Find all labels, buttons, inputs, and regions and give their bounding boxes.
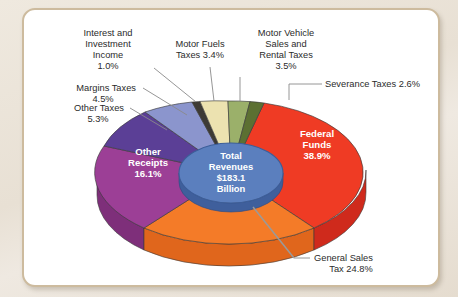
leader-severance [289,84,322,100]
callout-severance-taxes: Severance Taxes 2.6% [325,79,420,89]
interest-line1: Interest and [83,28,132,38]
callout-margins-taxes: Margins Taxes 4.5% [76,83,136,104]
interest-line3: Income [93,50,124,60]
center-label-line1: Total [220,150,242,161]
chart-frame: Total Revenues $183.1 Billion Federal Fu… [22,8,440,287]
center-hub: Total Revenues $183.1 Billion [179,143,283,212]
callout-other-taxes: Other Taxes 5.3% [74,103,124,124]
federal-funds-value: 38.9% [303,150,331,161]
interest-value: 1.0% [97,61,118,71]
interest-line2: Investment [85,39,131,49]
severance-line1: Severance Taxes 2.6% [325,79,420,89]
motor-vehicle-value: 3.5% [275,61,296,71]
other-receipts-line1: Other [135,146,161,157]
callout-motor-vehicle-sales-rental-taxes: Motor Vehicle Sales and Rental Taxes 3.5… [258,28,314,71]
federal-funds-line2: Funds [303,139,332,150]
motor-vehicle-line3: Rental Taxes [259,50,313,60]
motor-fuels-line1: Motor Fuels [175,39,224,49]
federal-funds-line1: Federal [300,128,334,139]
callout-motor-fuels-taxes: Motor Fuels Taxes 3.4% [175,39,224,60]
pie-chart: Total Revenues $183.1 Billion Federal Fu… [24,10,438,285]
other-receipts-value: 16.1% [134,168,162,179]
callout-interest-investment-income: Interest and Investment Income 1.0% [83,28,132,71]
callout-general-sales-tax: General Sales Tax 24.8% [314,253,373,274]
other-taxes-line1: Other Taxes [74,103,124,113]
leader-interest-investment [154,68,196,102]
motor-fuels-line2: Taxes 3.4% [176,50,224,60]
motor-vehicle-line2: Sales and [265,39,306,49]
general-sales-value: Tax 24.8% [329,264,372,274]
center-label-line3: $183.1 [217,172,246,183]
motor-vehicle-line1: Motor Vehicle [258,28,314,38]
other-receipts-line2: Receipts [128,157,168,168]
leader-motor-fuels [210,67,214,101]
center-label-line2: Revenues [209,161,253,172]
center-label-line4: Billion [217,183,246,194]
slice-label-federal-funds: Federal Funds 38.9% [300,128,334,161]
other-taxes-value: 5.3% [87,114,108,124]
margins-line1: Margins Taxes [76,83,136,93]
general-sales-line1: General Sales [314,253,373,263]
